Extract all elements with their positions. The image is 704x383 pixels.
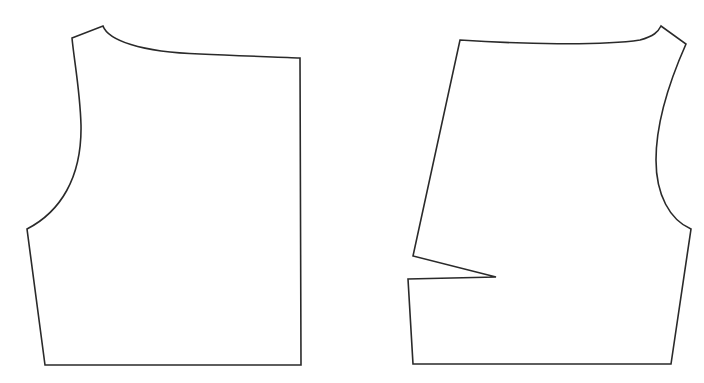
back-bodice-piece [27, 26, 301, 365]
pattern-canvas [0, 0, 704, 383]
front-bodice-piece [408, 26, 691, 364]
